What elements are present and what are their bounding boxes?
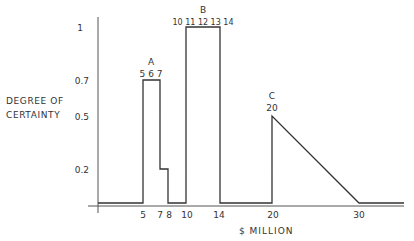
annotation-b-label: B bbox=[200, 5, 206, 15]
y-axis-label: CERTAINTY bbox=[6, 110, 60, 120]
certainty-chart: 1 0.7 0.5 0.2 DEGREE OF CERTAINTY 5 7 8 … bbox=[0, 0, 414, 241]
x-axis-label: $ MILLION bbox=[239, 226, 294, 236]
x-tick-label: 7 bbox=[157, 210, 163, 220]
annotation-a-values: 5 6 7 bbox=[140, 69, 163, 79]
annotation-a-label: A bbox=[148, 57, 155, 67]
y-tick-label: 0.7 bbox=[75, 76, 89, 86]
x-tick-label: 5 bbox=[140, 210, 146, 220]
annotation-c-label: C bbox=[269, 91, 275, 101]
annotation-b-values: 10 11 12 13 14 bbox=[172, 18, 233, 27]
y-tick-label: 0.5 bbox=[75, 112, 89, 122]
certainty-series-line bbox=[98, 27, 404, 203]
x-tick-label: 10 bbox=[181, 210, 193, 220]
annotation-c-values: 20 bbox=[266, 103, 278, 113]
y-tick-label: 1 bbox=[77, 23, 83, 33]
y-tick-label: 0.2 bbox=[75, 165, 89, 175]
x-tick-label: 20 bbox=[267, 210, 279, 220]
y-axis-label: DEGREE OF bbox=[6, 96, 64, 106]
x-tick-label: 8 bbox=[166, 210, 172, 220]
x-tick-label: 30 bbox=[353, 210, 365, 220]
x-tick-label: 14 bbox=[213, 210, 225, 220]
